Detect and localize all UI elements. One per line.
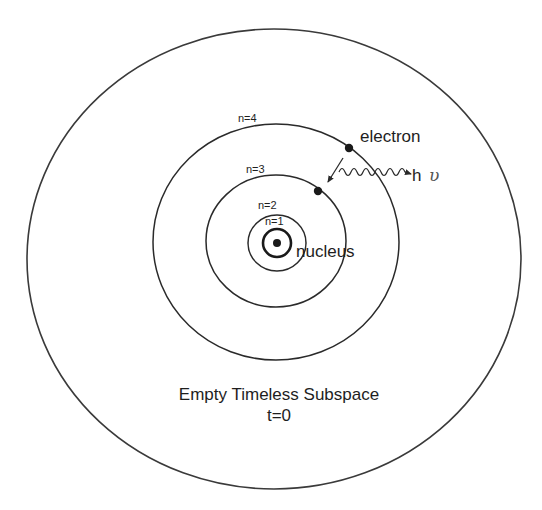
transition-arrow <box>328 158 343 182</box>
electron-n4 <box>345 144 353 152</box>
label-n2: n=2 <box>258 199 277 211</box>
electron-n3 <box>314 187 322 195</box>
label-n4: n=4 <box>238 112 257 124</box>
bohr-atom-diagram: n=4 n=3 n=2 n=1 nucleus electron h υ Emp… <box>0 0 542 510</box>
caption-subspace: Empty Timeless Subspace <box>179 385 379 404</box>
label-nucleus: nucleus <box>296 242 355 261</box>
label-electron: electron <box>360 127 420 146</box>
caption-time: t=0 <box>267 406 291 425</box>
label-n1: n=1 <box>265 215 284 227</box>
label-n3: n=3 <box>246 163 265 175</box>
photon-wave <box>339 169 411 176</box>
nucleus-dot <box>273 239 281 247</box>
label-photon-h: h <box>412 166 421 185</box>
label-photon-nu: υ <box>429 165 439 185</box>
